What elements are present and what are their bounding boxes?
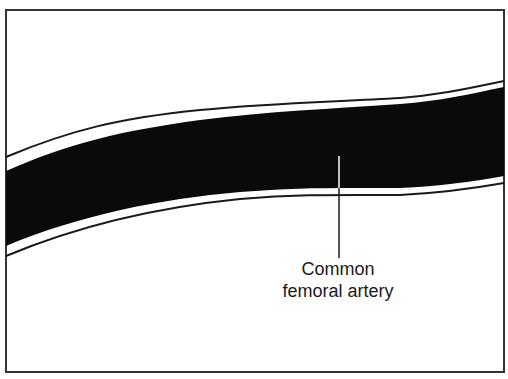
common-femoral-artery-label: Common femoral artery [263, 258, 413, 302]
artery-diagram [0, 0, 508, 379]
label-line-2: femoral artery [263, 280, 413, 302]
label-line-1: Common [263, 258, 413, 280]
artery-lumen [6, 87, 504, 246]
